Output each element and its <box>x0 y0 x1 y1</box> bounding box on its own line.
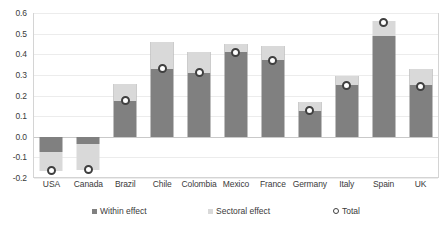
bar-segment-within[interactable] <box>77 137 100 144</box>
legend-label: Sectoral effect <box>216 206 270 216</box>
total-marker[interactable] <box>195 68 204 77</box>
y-axis-tick-label: 0.0 <box>15 132 27 142</box>
bar-segment-within[interactable] <box>372 36 395 137</box>
x-axis-tick-label: Italy <box>339 179 354 189</box>
y-axis-tick-label: -0.2 <box>13 173 27 183</box>
x-axis-tick-label: Colombia <box>182 179 217 189</box>
x-axis-tick-label: USA <box>43 179 60 189</box>
bar-group[interactable] <box>402 13 439 178</box>
total-marker[interactable] <box>47 166 56 175</box>
total-marker[interactable] <box>158 64 167 73</box>
legend-item[interactable]: Within effect <box>92 206 147 216</box>
bar-group[interactable] <box>181 13 218 178</box>
bar-group[interactable] <box>107 13 144 178</box>
x-axis-tick-label: Brazil <box>115 179 136 189</box>
bar-segment-within[interactable] <box>40 137 63 152</box>
bar-group[interactable] <box>254 13 291 178</box>
legend-item[interactable]: Sectoral effect <box>208 206 270 216</box>
x-axis-tick-label: Germany <box>293 179 327 189</box>
bars-layer <box>33 13 439 178</box>
x-axis-tick-label: UK <box>415 179 427 189</box>
bar-chart: 0.60.50.40.30.20.10.0-0.1-0.2 USACanadaB… <box>0 0 448 234</box>
x-axis-tick-label: Mexico <box>223 179 249 189</box>
y-axis-tick-label: -0.1 <box>13 152 27 162</box>
y-axis-tick-label: 0.4 <box>15 49 27 59</box>
total-marker[interactable] <box>121 96 130 105</box>
x-axis-tick-label: Spain <box>373 179 394 189</box>
total-marker[interactable] <box>416 82 425 91</box>
y-axis-tick-label: 0.2 <box>15 91 27 101</box>
y-axis: 0.60.50.40.30.20.10.0-0.1-0.2 <box>0 13 31 178</box>
y-axis-tick-label: 0.1 <box>15 111 27 121</box>
bar-group[interactable] <box>70 13 107 178</box>
bar-group[interactable] <box>328 13 365 178</box>
x-axis-tick-label: Canada <box>74 179 103 189</box>
legend-dark-square-icon <box>92 209 97 214</box>
legend-label: Total <box>342 206 360 216</box>
legend-item[interactable]: Total <box>333 206 360 216</box>
x-axis-tick-label: Chile <box>153 179 172 189</box>
y-axis-tick-label: 0.6 <box>15 8 27 18</box>
bar-group[interactable] <box>291 13 328 178</box>
bar-group[interactable] <box>144 13 181 178</box>
bar-segment-within[interactable] <box>224 44 247 137</box>
total-marker[interactable] <box>342 81 351 90</box>
bar-group[interactable] <box>33 13 70 178</box>
y-axis-tick-label: 0.5 <box>15 29 27 39</box>
y-axis-tick-label: 0.3 <box>15 70 27 80</box>
chart-legend: Within effectSectoral effectTotal <box>33 206 439 220</box>
legend-light-square-icon <box>208 209 213 214</box>
x-axis-tick-label: France <box>260 179 286 189</box>
x-axis: USACanadaBrazilChileColombiaMexicoFrance… <box>33 179 439 195</box>
legend-label: Within effect <box>100 206 147 216</box>
total-marker[interactable] <box>84 165 93 174</box>
legend-circle-marker-icon <box>333 208 339 214</box>
bar-group[interactable] <box>218 13 255 178</box>
bar-group[interactable] <box>365 13 402 178</box>
total-marker[interactable] <box>379 18 388 27</box>
